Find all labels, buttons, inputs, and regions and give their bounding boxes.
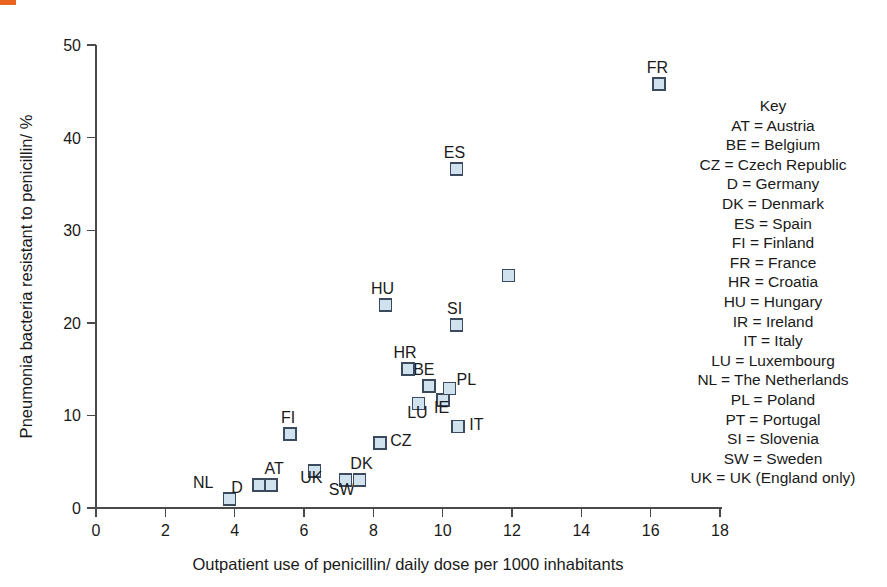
data-point-label-nl: NL [193, 474, 214, 491]
data-point-label-it: IT [469, 416, 483, 433]
marker-square [451, 163, 463, 175]
data-point-label-fi: FI [281, 409, 295, 426]
marker-square [402, 363, 414, 375]
data-point-fi [284, 428, 296, 440]
key-entry: IR = Ireland [675, 312, 871, 332]
data-point-d [253, 479, 265, 491]
data-point-cz [374, 437, 386, 449]
x-tick-label: 10 [434, 522, 452, 539]
marker-square [284, 428, 296, 440]
key-entry: PL = Poland [675, 390, 871, 410]
key-entry: SI = Slovenia [675, 429, 871, 449]
data-point-label-d: D [231, 479, 243, 496]
marker-square [452, 421, 464, 433]
marker-square [444, 383, 456, 395]
key-entry: HR = Croatia [675, 272, 871, 292]
y-tick-label: 0 [72, 500, 81, 517]
key-entry: BE = Belgium [675, 135, 871, 155]
key-title: Key [675, 96, 871, 116]
x-tick-label: 4 [230, 522, 239, 539]
data-point-label-es: ES [444, 144, 465, 161]
y-tick-label: 30 [63, 222, 81, 239]
data-point-hu [379, 299, 391, 311]
x-tick-label: 6 [300, 522, 309, 539]
key-entry: DK = Denmark [675, 194, 871, 214]
x-tick-label: 14 [572, 522, 590, 539]
key-entry: FR = France [675, 253, 871, 273]
data-point-label-uk: UK [300, 469, 323, 486]
y-tick-label: 10 [63, 407, 81, 424]
data-point-dk [353, 474, 365, 486]
key-entry: PT = Portugal [675, 410, 871, 430]
data-point-label-pl: PL [457, 371, 477, 388]
x-tick-label: 8 [369, 522, 378, 539]
x-tick-label: 12 [503, 522, 521, 539]
x-tick-label: 16 [642, 522, 660, 539]
y-axis-title: Pneumonia bacteria resistant to penicill… [17, 114, 35, 438]
marker-square [451, 319, 463, 331]
data-point-es [451, 163, 463, 175]
data-point-fr [653, 78, 665, 90]
data-point-label-lu: LU [407, 404, 427, 421]
data-points-group: NLDATSWDKUKCZFIITLUIEPLBEHRSIHUESFR [193, 59, 668, 505]
marker-square [253, 479, 265, 491]
marker-square [423, 380, 435, 392]
data-point-pl [444, 383, 456, 395]
key-entry: ES = Spain [675, 214, 871, 234]
x-tick-label: 2 [161, 522, 170, 539]
key-entry: SW = Sweden [675, 449, 871, 469]
marker-square [379, 299, 391, 311]
data-point-si [451, 319, 463, 331]
key-entry: FI = Finland [675, 233, 871, 253]
data-point-label-at: AT [264, 460, 283, 477]
data-point-label-cz: CZ [390, 432, 412, 449]
data-point-pt [503, 270, 515, 282]
key-entry: D = Germany [675, 174, 871, 194]
data-point-label-hu: HU [371, 280, 394, 297]
x-axis-title: Outpatient use of penicillin/ daily dose… [192, 555, 623, 573]
data-point-it [452, 421, 464, 433]
axis-titles-group: Outpatient use of penicillin/ daily dose… [17, 114, 624, 573]
x-tick-label: 18 [711, 522, 729, 539]
y-tick-label: 40 [63, 130, 81, 147]
data-point-label-hr: HR [393, 344, 416, 361]
data-point-label-dk: DK [350, 455, 373, 472]
key-entry: IT = Italy [675, 331, 871, 351]
marker-square [374, 437, 386, 449]
key-entry: UK = UK (England only) [675, 468, 871, 488]
key-entry: AT = Austria [675, 116, 871, 136]
data-point-be [423, 380, 435, 392]
key-entry: HU = Hungary [675, 292, 871, 312]
key-entries-list: AT = AustriaBE = BelgiumCZ = Czech Repub… [675, 116, 871, 488]
key-legend: Key AT = AustriaBE = BelgiumCZ = Czech R… [675, 96, 871, 488]
data-point-label-si: SI [447, 300, 462, 317]
y-tick-label: 20 [63, 315, 81, 332]
key-entry: CZ = Czech Republic [675, 155, 871, 175]
marker-square [653, 78, 665, 90]
chart-page: 02468101214161801020304050 NLDATSWDKUKCZ… [0, 0, 887, 587]
y-tick-label: 50 [63, 37, 81, 54]
marker-square [353, 474, 365, 486]
data-point-label-sw: SW [329, 481, 356, 498]
marker-square [265, 479, 277, 491]
key-entry: LU = Luxembourg [675, 351, 871, 371]
data-point-at [265, 479, 277, 491]
axes-group: 02468101214161801020304050 [63, 37, 729, 539]
data-point-hr [402, 363, 414, 375]
key-entry: NL = The Netherlands [675, 370, 871, 390]
data-point-label-fr: FR [647, 59, 668, 76]
data-point-label-be: BE [413, 361, 434, 378]
x-tick-label: 0 [92, 522, 101, 539]
data-point-label-ie: IE [434, 399, 449, 416]
marker-square [503, 270, 515, 282]
